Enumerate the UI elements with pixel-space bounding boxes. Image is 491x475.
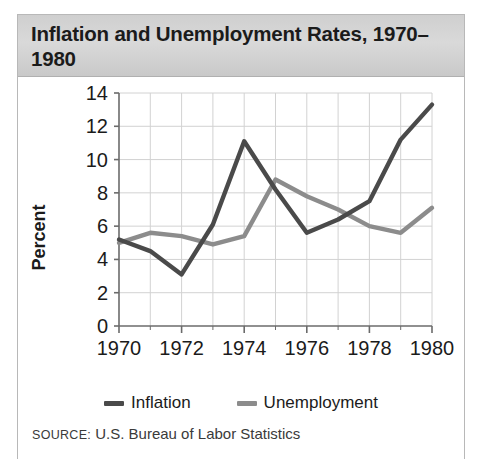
y-tick-label: 6: [97, 215, 108, 237]
chart-legend: Inflation Unemployment: [18, 393, 464, 413]
source-note: SOURCE: U.S. Bureau of Labor Statistics: [32, 425, 300, 442]
y-tick-label: 2: [97, 282, 108, 304]
chart-body: Percent 02468101214197019721974197619781…: [18, 77, 464, 460]
legend-swatch-inflation: [104, 401, 124, 406]
x-tick-label: 1978: [347, 337, 392, 359]
y-axis-title: Percent: [29, 204, 50, 270]
x-tick-label: 1976: [285, 337, 330, 359]
x-tick-label: 1980: [410, 337, 455, 359]
y-tick-label: 10: [86, 149, 108, 171]
y-tick-label: 0: [97, 315, 108, 337]
chart-title-bar: Inflation and Unemployment Rates, 1970–1…: [18, 15, 464, 77]
legend-item-inflation: Inflation: [104, 393, 191, 413]
x-tick-label: 1972: [159, 337, 204, 359]
chart-figure: Inflation and Unemployment Rates, 1970–1…: [17, 14, 465, 459]
y-tick-label: 8: [97, 182, 108, 204]
x-tick-label: 1974: [222, 337, 267, 359]
source-text: U.S. Bureau of Labor Statistics: [95, 425, 300, 442]
plot-area: Percent 02468101214197019721974197619781…: [18, 77, 466, 397]
y-tick-label: 4: [97, 248, 108, 270]
line-chart-svg: 02468101214197019721974197619781980: [18, 77, 466, 397]
chart-title: Inflation and Unemployment Rates, 1970–1…: [31, 21, 451, 71]
y-tick-label: 12: [86, 115, 108, 137]
x-tick-label: 1970: [97, 337, 142, 359]
legend-label-inflation: Inflation: [131, 393, 191, 413]
legend-item-unemployment: Unemployment: [237, 393, 378, 413]
source-label: SOURCE:: [32, 428, 91, 442]
legend-label-unemployment: Unemployment: [264, 393, 378, 413]
legend-swatch-unemployment: [237, 401, 257, 406]
y-tick-label: 14: [86, 82, 108, 104]
